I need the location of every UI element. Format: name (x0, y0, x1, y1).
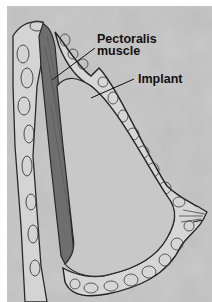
pectoralis-label: Pectoralis muscle (97, 33, 157, 57)
pectoralis-label-line2: muscle (97, 45, 157, 57)
illustration-frame: Pectoralis muscle Implant (7, 6, 212, 302)
implant-label: Implant (138, 73, 182, 85)
